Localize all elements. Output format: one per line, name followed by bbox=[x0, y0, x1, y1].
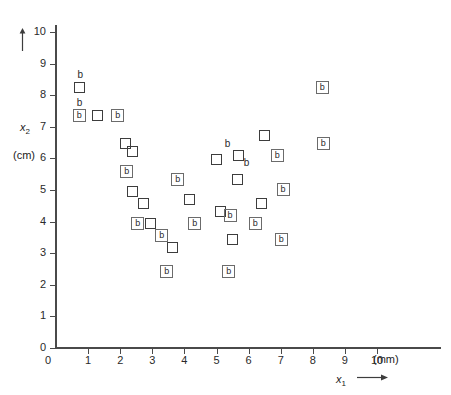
data-point-square bbox=[127, 186, 138, 197]
data-point-boxed-b: b bbox=[188, 217, 201, 230]
y-axis-tick-label-text: 10 bbox=[28, 26, 46, 37]
data-point-boxed-b: b bbox=[131, 217, 144, 230]
data-point-annotation-b: b bbox=[225, 139, 231, 149]
y-axis-tick bbox=[50, 127, 56, 128]
data-point-square bbox=[184, 194, 195, 205]
y-axis-tick bbox=[50, 190, 56, 191]
data-point-boxed-b: b bbox=[171, 173, 184, 186]
data-point-square bbox=[167, 242, 178, 253]
data-point-square bbox=[259, 130, 270, 141]
y-axis-tick bbox=[50, 348, 56, 349]
data-point-annotation-b: b bbox=[244, 158, 250, 168]
data-point-square bbox=[232, 174, 243, 185]
data-point-annotation-b: b bbox=[77, 98, 83, 108]
data-point-square bbox=[92, 110, 103, 121]
y-axis-tick-label-text: 0 bbox=[28, 342, 46, 353]
x-axis-tick-label: 6 bbox=[237, 355, 261, 366]
y-axis-tick bbox=[50, 158, 56, 159]
data-point-boxed-b: b bbox=[275, 233, 288, 246]
y-axis-tick-label-text: 9 bbox=[28, 58, 46, 69]
data-point-square bbox=[211, 154, 222, 165]
x-axis-tick-label: 7 bbox=[269, 355, 293, 366]
x-axis-tick-label: 10 bbox=[365, 355, 389, 366]
data-point-boxed-b: b bbox=[160, 265, 173, 278]
data-point-boxed-b: b bbox=[316, 81, 329, 94]
x-axis-tick-label: 5 bbox=[205, 355, 229, 366]
y-axis-tick-label-text: 4 bbox=[28, 216, 46, 227]
data-point-annotation-b: b bbox=[77, 70, 83, 80]
data-point-boxed-b: b bbox=[224, 209, 237, 222]
y-axis-tick-label-text: 8 bbox=[28, 89, 46, 100]
data-point-boxed-b: b bbox=[155, 229, 168, 242]
y-axis-tick bbox=[50, 95, 56, 96]
y-axis-tick-label-text: 5 bbox=[28, 184, 46, 195]
y-axis-tick-label-text: 3 bbox=[28, 247, 46, 258]
y-axis-tick bbox=[50, 64, 56, 65]
y-axis-tick bbox=[50, 222, 56, 223]
data-point-boxed-b: b bbox=[271, 149, 284, 162]
y-axis-tick bbox=[50, 285, 56, 286]
data-point-square bbox=[127, 146, 138, 157]
data-point-boxed-b: b bbox=[277, 183, 290, 196]
data-point-boxed-b: b bbox=[249, 217, 262, 230]
x-axis-tick-label: 8 bbox=[301, 355, 325, 366]
x-axis-tick-label: 4 bbox=[172, 355, 196, 366]
data-point-square bbox=[256, 198, 267, 209]
y-axis-tick-label-text: 6 bbox=[28, 152, 46, 163]
y-axis-tick-label-text: 2 bbox=[28, 279, 46, 290]
y-axis-tick-label-text: 7 bbox=[28, 121, 46, 132]
x-axis-tick-label: 2 bbox=[108, 355, 132, 366]
data-point-square bbox=[233, 150, 244, 161]
x-axis-tick-label: 1 bbox=[76, 355, 100, 366]
data-point-square bbox=[227, 234, 238, 245]
plot-area: 012345678910012345678910bbbbbbbbbbbbbbbb… bbox=[0, 0, 451, 395]
x-axis-tick-label: 0 bbox=[36, 355, 60, 366]
data-point-square bbox=[138, 198, 149, 209]
y-axis-tick bbox=[50, 32, 56, 33]
data-point-boxed-b: b bbox=[222, 265, 235, 278]
y-axis-tick bbox=[50, 316, 56, 317]
scatter-chart: x2 (cm) x1 (mm) 012345678910012345678910… bbox=[0, 0, 451, 395]
x-axis-tick-label: 3 bbox=[140, 355, 164, 366]
y-axis-tick-label-text: 1 bbox=[28, 310, 46, 321]
data-point-square bbox=[74, 82, 85, 93]
data-point-boxed-b: b bbox=[317, 137, 330, 150]
data-point-boxed-b: b bbox=[111, 109, 124, 122]
data-point-boxed-b: b bbox=[73, 109, 86, 122]
x-axis-tick-label: 9 bbox=[333, 355, 357, 366]
data-point-boxed-b: b bbox=[120, 165, 133, 178]
data-point-square bbox=[145, 218, 156, 229]
y-axis-tick bbox=[50, 253, 56, 254]
